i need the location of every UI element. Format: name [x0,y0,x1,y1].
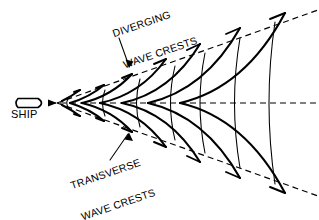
ship-group [16,99,57,108]
transverse-label-line1: TRANSVERSE [69,156,146,192]
diverging-label-line1: DIVERGING [111,4,188,40]
ship-bow-arrow-icon [48,100,57,107]
transverse-label-line2: WAVE CRESTS [80,187,157,220]
diverging-label-line2: WAVE CRESTS [122,35,199,71]
ship-wake-diagram: SHIP DIVERGING WAVE CRESTS TRANSVERSE WA… [0,0,319,220]
ship-label: SHIP [11,109,37,121]
transverse-crest [67,99,68,107]
ship-hull-icon [16,99,42,108]
